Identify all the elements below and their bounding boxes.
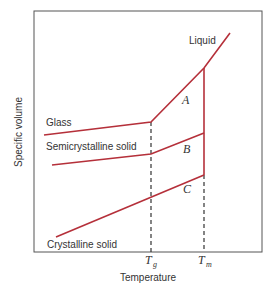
region-b-label: B bbox=[183, 142, 191, 156]
tm-tick-main: T bbox=[198, 253, 206, 267]
crystalline-label: Crystalline solid bbox=[47, 239, 117, 250]
glass-label: Glass bbox=[46, 117, 72, 128]
y-axis-label: Specific volume bbox=[13, 97, 24, 167]
tm-tick-sub: m bbox=[206, 260, 212, 269]
semicrystalline-label: Semicrystalline solid bbox=[46, 141, 137, 152]
liquid-label: Liquid bbox=[189, 35, 216, 46]
crystalline-curve bbox=[56, 175, 204, 237]
tg-tick-main: T bbox=[145, 253, 153, 267]
tg-tick-sub: g bbox=[153, 260, 157, 269]
specific-volume-diagram: Liquid Glass Semicrystalline solid Cryst… bbox=[0, 0, 268, 292]
x-axis-label: Temperature bbox=[120, 272, 177, 283]
region-a-label: A bbox=[181, 93, 190, 107]
region-c-label: C bbox=[183, 182, 192, 196]
glass-liquid-curve bbox=[44, 33, 230, 135]
